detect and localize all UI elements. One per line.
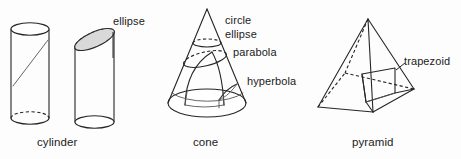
label-cone-circle: circle xyxy=(225,14,251,26)
label-cone-parabola: parabola xyxy=(233,46,277,58)
pyramid-base-back-left xyxy=(318,73,345,107)
cylinder2-cut-face-group xyxy=(72,24,117,55)
cylinder1-bottom-back-arc xyxy=(11,112,49,118)
cylinder1-diagonal-section-line xyxy=(13,40,48,86)
cone-circle-back-arc xyxy=(193,39,221,43)
pyramid-trapezoid-left-edge xyxy=(362,74,366,102)
pyramid-trapezoid-cross-section xyxy=(362,68,395,102)
pyramid-base-back-right xyxy=(345,73,414,89)
pyramid-trapezoid-drop-front xyxy=(366,102,373,112)
cylinder1-bottom-front-arc xyxy=(11,118,49,124)
label-cylinder-ellipse: ellipse xyxy=(113,15,145,27)
cylinder2-bottom-ellipse xyxy=(75,116,114,128)
label-pyramid-name: pyramid xyxy=(352,136,394,148)
pyramid-base-front-left xyxy=(318,107,373,112)
cylinder2-ellipse-cross-section xyxy=(72,24,117,55)
pyramid-edge-apex-to-back xyxy=(345,19,368,73)
cone-circle-front-arc xyxy=(193,43,221,47)
label-cone-name: cone xyxy=(193,136,218,148)
pyramid-edge-apex-to-front xyxy=(368,19,373,112)
geometry-figure: ellipse cylinder circle ellipse parabola… xyxy=(0,0,461,159)
pyramid-edge-apex-to-left xyxy=(318,19,368,107)
pyramid-trapezoid-lower-edge xyxy=(366,93,395,102)
label-cone-ellipse: ellipse xyxy=(225,28,257,40)
pyramid-edge-apex-to-right xyxy=(368,19,414,89)
cylinder-sliced-diagram xyxy=(72,24,117,128)
cylinder1-top-ellipse xyxy=(11,23,49,35)
cylinder-upright-diagram xyxy=(11,23,49,124)
label-cylinder-name: cylinder xyxy=(37,136,77,148)
label-cone-hyperbola: hyperbola xyxy=(247,75,296,87)
cone-ellipse-group xyxy=(182,47,228,71)
pyramid-diagram xyxy=(318,19,414,112)
cone-base-ellipse xyxy=(168,89,246,117)
pyramid-base-front-right xyxy=(373,89,414,112)
label-pyramid-trapezoid: trapezoid xyxy=(404,55,450,67)
